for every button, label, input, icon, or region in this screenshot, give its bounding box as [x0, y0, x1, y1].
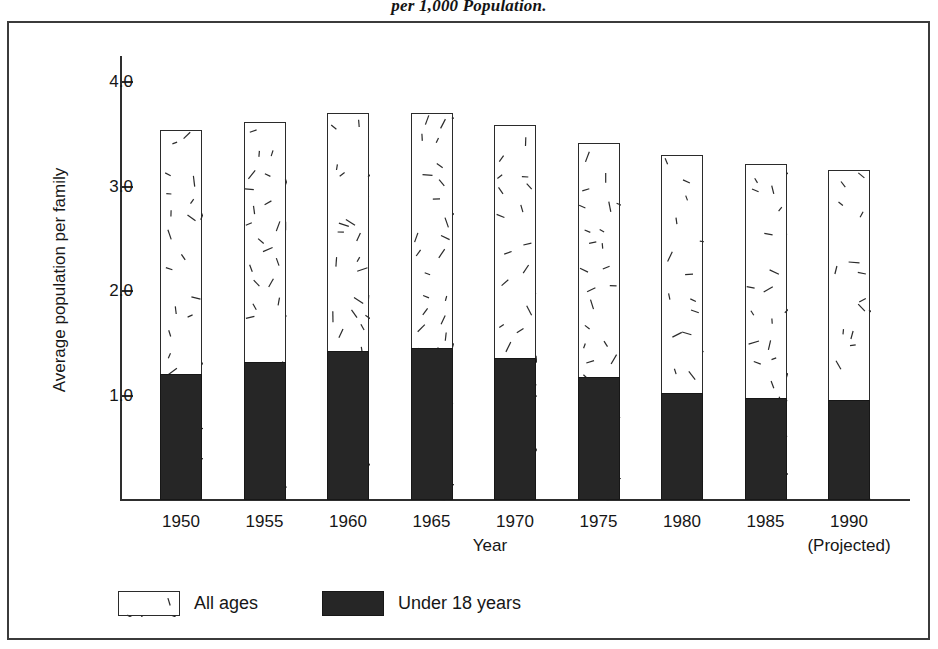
- bar-under-18[interactable]: [494, 358, 536, 500]
- bar-under-18[interactable]: [160, 374, 202, 500]
- bar-under-18[interactable]: [745, 398, 787, 500]
- y-axis-tick-label: 3.0: [87, 177, 133, 197]
- hatch-pattern: [119, 592, 181, 617]
- legend-swatch-hatched-icon: [118, 591, 180, 616]
- y-axis-tick-label: 2.0: [87, 281, 133, 301]
- bar-under-18[interactable]: [327, 351, 369, 500]
- bar-under-18[interactable]: [661, 393, 703, 500]
- y-axis-line: [120, 56, 122, 501]
- legend-item[interactable]: Under 18 years: [322, 590, 521, 616]
- bar-under-18[interactable]: [828, 400, 870, 500]
- y-axis-tick-label: 4.0: [87, 72, 133, 92]
- y-axis-title: Average population per family: [50, 80, 70, 480]
- bar-under-18[interactable]: [578, 377, 620, 500]
- x-axis-sublabel: (Projected): [789, 536, 909, 556]
- legend-label: All ages: [194, 593, 258, 614]
- y-axis-tick-label: 1.0: [87, 386, 133, 406]
- x-axis-tick-label: 1990: [799, 512, 899, 532]
- bar-under-18[interactable]: [244, 362, 286, 500]
- plot-area: 1.02.03.04.0 Average population per fami…: [0, 0, 938, 649]
- bar-under-18[interactable]: [411, 348, 453, 500]
- legend-swatch-solid-icon: [322, 591, 384, 616]
- x-axis-title: Year: [390, 536, 590, 556]
- legend-item[interactable]: All ages: [118, 590, 258, 616]
- legend-label: Under 18 years: [398, 593, 521, 614]
